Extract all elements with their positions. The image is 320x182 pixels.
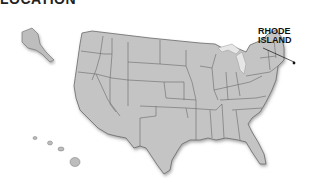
alaska-shape xyxy=(22,28,54,62)
contiguous-us-shape xyxy=(74,30,284,174)
label-line-2: ISLAND xyxy=(258,36,292,45)
rhode-island-marker xyxy=(293,62,296,65)
hawaii-shape xyxy=(33,137,80,167)
rhode-island-label: RHODE ISLAND xyxy=(258,27,292,45)
